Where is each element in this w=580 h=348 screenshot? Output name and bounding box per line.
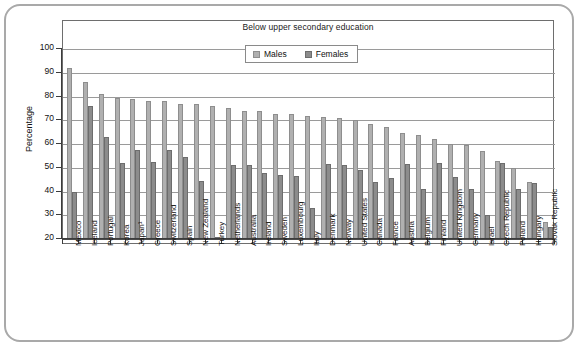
- bar-group: [83, 49, 93, 239]
- x-axis-label-ireland: Ireland: [265, 222, 273, 246]
- x-axis-label-luxembourg: Luxembourg: [297, 202, 305, 246]
- bar-group: [400, 49, 410, 239]
- y-axis-labels: 2030405060708090100: [24, 6, 54, 348]
- figure-frame: 2030405060708090100 Percentage Below upp…: [4, 4, 574, 342]
- x-axis-label-japan: Japan¹: [138, 222, 146, 246]
- x-axis-label-hungary: Hungary: [535, 216, 543, 246]
- bar-group: [273, 49, 283, 239]
- legend-label-males: Males: [264, 49, 287, 59]
- x-axis-label-france: France: [392, 221, 400, 246]
- x-axis-label-germany: Germany: [472, 213, 480, 246]
- legend-item-males: Males: [253, 49, 287, 59]
- x-axis-label-austria: Austria: [408, 221, 416, 246]
- x-axis-label-australia: Australia: [250, 215, 258, 246]
- bar-group: [99, 49, 109, 239]
- x-axis-label-portugal: Portugal: [107, 216, 115, 246]
- chart-legend: Males Females: [245, 45, 358, 63]
- legend-swatch-males-icon: [253, 51, 260, 58]
- x-axis-label-turkey: Turkey: [218, 222, 226, 246]
- x-axis-label-slovakrepublic: Slovak Republic: [551, 189, 559, 246]
- chart-title: Below upper secondary education: [63, 22, 553, 32]
- x-axis-label-unitedkingdom: United Kingdom: [456, 189, 464, 246]
- x-axis-label-canada: Canada: [376, 218, 384, 246]
- x-axis-label-finland: Finland: [440, 220, 448, 246]
- bar-group: [527, 49, 537, 239]
- bar-group: [480, 49, 490, 239]
- bar-group: [464, 49, 474, 239]
- x-axis-label-switzerland: Switzerland: [170, 205, 178, 246]
- plot-area: [63, 49, 555, 239]
- bar-group: [432, 49, 442, 239]
- x-axis-label-netherlands: Netherlands: [234, 203, 242, 246]
- bar-group: [257, 49, 267, 239]
- bar-group: [67, 49, 77, 239]
- x-axis-label-iceland: Iceland: [91, 220, 99, 246]
- bar-group: [115, 49, 125, 239]
- x-axis-label-greece: Greece: [154, 220, 162, 246]
- bar-group: [416, 49, 426, 239]
- x-axis-label-italy: Italy: [313, 231, 321, 246]
- x-axis-label-israel: Israel: [488, 226, 496, 246]
- chart-plot-panel: Below upper secondary education Males Fe…: [62, 20, 554, 244]
- bar-group: [178, 49, 188, 239]
- bar-group: [384, 49, 394, 239]
- x-axis-label-mexico: Mexico: [75, 221, 83, 246]
- bar-group: [368, 49, 378, 239]
- bar-group: [210, 49, 220, 239]
- legend-swatch-females-icon: [305, 51, 312, 58]
- y-axis-label-100: 100: [28, 43, 54, 52]
- x-axis-label-czechrepublic: Czech Republic: [503, 190, 511, 246]
- legend-label-females: Females: [316, 49, 349, 59]
- bar-group: [130, 49, 140, 239]
- legend-item-females: Females: [305, 49, 349, 59]
- x-axis-label-spain: Spain: [186, 226, 194, 246]
- bar-group: [337, 49, 347, 239]
- x-axis-label-poland: Poland: [519, 221, 527, 246]
- x-axis-label-belgium: Belgium: [424, 217, 432, 246]
- bar-females-iceland: [88, 106, 93, 239]
- x-axis-label-korea: Korea: [123, 225, 131, 246]
- x-axis-label-sweden: Sweden: [281, 217, 289, 246]
- y-axis-label-40: 40: [28, 186, 54, 195]
- y-axis-label-30: 30: [28, 209, 54, 218]
- bar-group: [305, 49, 315, 239]
- bar-group: [511, 49, 521, 239]
- x-axis-line: [62, 238, 554, 239]
- bar-group: [321, 49, 331, 239]
- y-axis-title: Percentage: [24, 84, 34, 174]
- bar-group: [146, 49, 156, 239]
- x-axis-label-newzealand: New Zealand: [202, 199, 210, 246]
- x-axis-label-norway: Norway: [345, 219, 353, 246]
- y-axis-label-90: 90: [28, 67, 54, 76]
- y-axis-label-20: 20: [28, 233, 54, 242]
- x-axis-tick: [62, 239, 63, 244]
- bar-group: [242, 49, 252, 239]
- bar-males-turkey: [210, 106, 215, 239]
- x-axis-label-unitedstates: United States: [361, 198, 369, 246]
- x-axis-label-denmark: Denmark: [329, 214, 337, 246]
